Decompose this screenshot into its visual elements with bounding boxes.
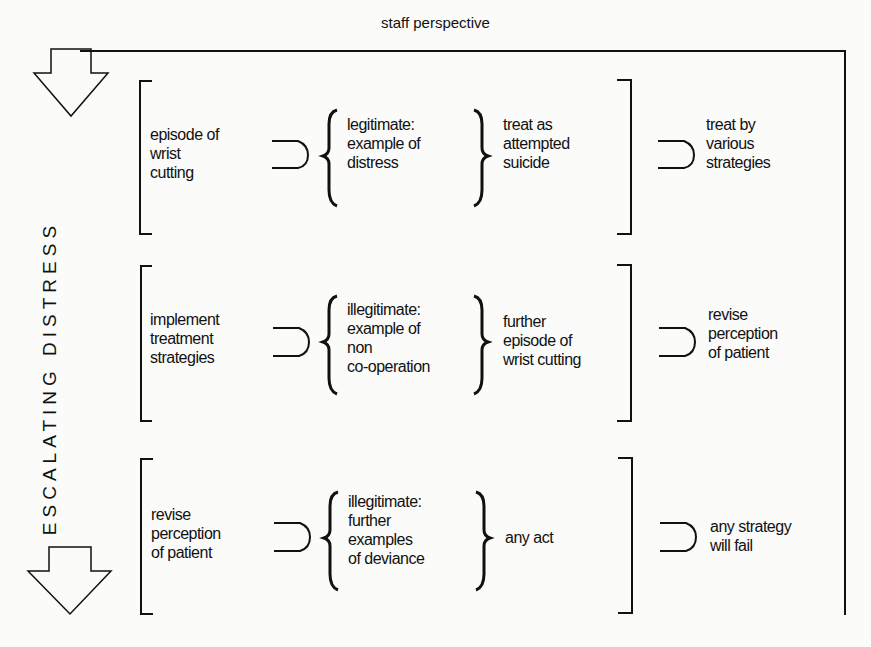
row3-interpretation: illegitimate: further examples of devian… bbox=[348, 492, 424, 568]
row1-interpretation: legitimate: example of distress bbox=[347, 115, 420, 172]
row1-behaviour: episode of wrist cutting bbox=[150, 125, 219, 182]
row1-response: treat as attempted suicide bbox=[503, 115, 570, 172]
row3-outcome: any strategy will fail bbox=[710, 517, 791, 555]
implies-symbol bbox=[660, 523, 696, 551]
implies-symbol bbox=[659, 328, 695, 356]
right-square-bracket bbox=[617, 265, 631, 421]
row1-outcome: treat by various strategies bbox=[706, 115, 770, 172]
right-square-bracket bbox=[618, 458, 632, 613]
row3-behaviour: revise perception of patient bbox=[151, 505, 221, 562]
down-arrow-icon bbox=[34, 49, 108, 116]
implies-symbol bbox=[274, 523, 310, 551]
diagram-title: staff perspective bbox=[0, 14, 871, 31]
escalating-distress-label: ESCALATING DISTRESS bbox=[39, 188, 61, 568]
row3-response: any act bbox=[505, 528, 553, 547]
right-curly-brace bbox=[474, 110, 488, 206]
row2-response: further episode of wrist cutting bbox=[503, 312, 581, 369]
implies-symbol bbox=[273, 328, 309, 356]
implies-symbol bbox=[272, 141, 308, 168]
row2-behaviour: implement treatment strategies bbox=[150, 310, 219, 367]
row2-outcome: revise perception of patient bbox=[708, 305, 778, 362]
left-curly-brace bbox=[323, 296, 337, 394]
right-curly-brace bbox=[474, 296, 488, 394]
left-curly-brace bbox=[324, 492, 338, 590]
row2-interpretation: illegitimate: example of non co-operatio… bbox=[347, 300, 430, 376]
left-curly-brace bbox=[323, 110, 337, 206]
implies-symbol bbox=[658, 141, 694, 168]
right-curly-brace bbox=[476, 492, 490, 590]
right-square-bracket bbox=[617, 80, 631, 234]
